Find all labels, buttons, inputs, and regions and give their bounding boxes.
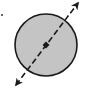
circle-diameter-diagram bbox=[0, 0, 85, 89]
stray-dot bbox=[1, 14, 3, 16]
